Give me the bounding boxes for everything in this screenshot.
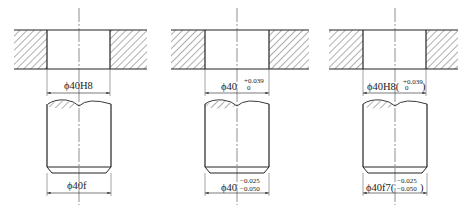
shaft-close-paren-3: ) xyxy=(420,182,424,194)
tolerance-drawing-figure: ϕ40H8 ϕ40f xyxy=(0,0,472,212)
shaft-tolerance-label-1: ϕ40f xyxy=(67,180,87,191)
shaft-upper-deviation-2: −0.025 xyxy=(240,177,260,185)
hole-tolerance-label-2: ϕ40 xyxy=(221,81,237,92)
shaft-lower-deviation-2: −0.050 xyxy=(240,185,260,193)
hole-lower-deviation-3: 0 xyxy=(405,84,409,92)
shaft-tolerance-label-2: ϕ40 xyxy=(221,182,237,193)
panel-2: ϕ40 +0.039 0 ϕ40 −0.025 −0.050 xyxy=(171,8,309,205)
shaft-tolerance-label-3: ϕ40f7( xyxy=(366,182,395,194)
panel-1: ϕ40H8 ϕ40f xyxy=(14,8,147,205)
hole-tolerance-label-3: ϕ40H8( xyxy=(367,81,400,93)
hole-lower-deviation-2: 0 xyxy=(247,84,251,92)
shaft-upper-deviation-3: −0.025 xyxy=(397,177,417,185)
hole-section-2 xyxy=(171,30,309,69)
hole-tolerance-label-1: ϕ40H8 xyxy=(64,80,93,91)
hole-dimension-1: ϕ40H8 xyxy=(47,69,110,96)
hole-section-1 xyxy=(14,30,147,69)
hole-section-3 xyxy=(329,30,458,69)
shaft-lower-deviation-3: −0.050 xyxy=(397,185,417,193)
hole-dimension-3: ϕ40H8( +0.039 0 ) xyxy=(363,69,426,96)
hole-close-paren-3: ) xyxy=(422,81,426,93)
panel-3: ϕ40H8( +0.039 0 ) ϕ40f7( −0.025 −0.050 ) xyxy=(329,8,458,205)
